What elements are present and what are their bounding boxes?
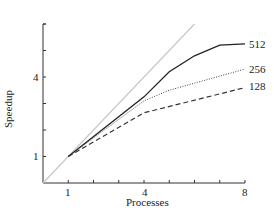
series-128	[68, 88, 245, 157]
series-label-128: 128	[249, 81, 266, 92]
series-ideal	[43, 24, 195, 183]
series-lines	[43, 24, 245, 183]
x-tick-1: 1	[65, 187, 71, 198]
series-512	[68, 44, 245, 157]
y-tick-4: 4	[33, 72, 39, 83]
speedup-chart	[0, 0, 274, 214]
x-axis-label: Processes	[126, 197, 169, 208]
series-256	[68, 69, 245, 156]
x-tick-8: 8	[242, 187, 248, 198]
series-label-256: 256	[249, 64, 266, 75]
y-axis-label: Speedup	[2, 90, 14, 128]
series-label-512: 512	[249, 39, 266, 50]
y-tick-1: 1	[33, 151, 39, 162]
